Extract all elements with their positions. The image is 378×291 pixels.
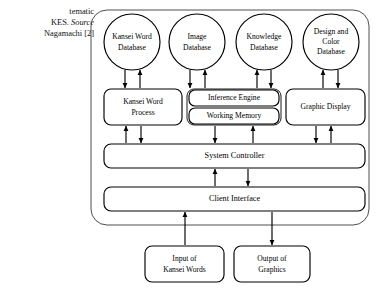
output-of-graphics-label-1: Output of (257, 254, 287, 263)
kansei-word-process-label-2: Process (131, 108, 154, 117)
kansei-word-process-label-1: Kansei Word (123, 97, 163, 106)
client-interface-label: Client Interface (209, 194, 261, 203)
image-database-label-2: Database (183, 43, 211, 52)
graphic-display-label: Graphic Display (301, 102, 351, 111)
design-and-color-database-label-1: Design and (314, 27, 349, 36)
inference-engine-label: Inference Engine (208, 93, 261, 102)
design-and-color-database-label-3: Database (317, 47, 345, 56)
output-of-graphics-label-2: Graphics (258, 265, 285, 274)
design-and-color-database-label-2: Color (322, 37, 340, 46)
knowledge-database-label-2: Database (250, 43, 278, 52)
working-memory-label: Working Memory (207, 111, 262, 120)
input-of-kansei-words-label-1: Input of (172, 254, 197, 263)
system-controller-label: System Controller (205, 151, 265, 160)
kes-architecture-diagram: Kansei Word Database Image Database Know… (0, 0, 378, 291)
image-database-label-1: Image (188, 32, 208, 41)
input-of-kansei-words-label-2: Kansei Words (163, 265, 206, 274)
figure-stage: tematic KES. Source Nagamachi [2] Kansei… (0, 0, 378, 291)
knowledge-database-label-1: Knowledge (246, 32, 282, 41)
kansei-word-database-label-1: Kansei Word (112, 32, 152, 41)
kansei-word-database-label-2: Database (118, 43, 146, 52)
